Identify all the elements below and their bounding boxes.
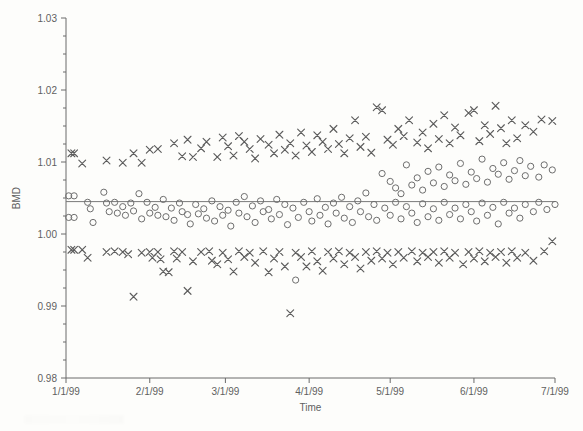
data-point-x xyxy=(246,249,253,256)
data-point-x xyxy=(287,310,294,317)
data-point-x xyxy=(203,138,210,145)
data-point-o xyxy=(295,214,301,220)
data-point-x xyxy=(184,287,191,294)
data-point-x xyxy=(260,248,267,255)
data-point-o xyxy=(468,209,474,215)
data-point-o xyxy=(495,221,501,227)
data-point-o xyxy=(398,191,404,197)
y-axis-title: BMD xyxy=(11,187,22,209)
data-point-o xyxy=(414,175,420,181)
data-point-o xyxy=(266,206,272,212)
data-point-x xyxy=(287,140,294,147)
data-point-o xyxy=(244,214,250,220)
data-point-x xyxy=(319,138,326,145)
data-point-x xyxy=(190,154,197,161)
data-point-x xyxy=(314,258,321,265)
data-point-o xyxy=(403,162,409,168)
data-point-x xyxy=(281,263,288,270)
data-point-o xyxy=(403,204,409,210)
data-point-x xyxy=(522,122,529,129)
data-point-o xyxy=(447,172,453,178)
data-point-x xyxy=(430,249,437,256)
data-point-x xyxy=(476,248,483,255)
data-point-o xyxy=(398,216,404,222)
data-point-o xyxy=(365,214,371,220)
data-point-x xyxy=(476,138,483,145)
data-point-x xyxy=(400,133,407,140)
data-point-x xyxy=(503,259,510,266)
data-point-o xyxy=(203,215,209,221)
data-point-x xyxy=(430,120,437,127)
data-point-x xyxy=(130,293,137,300)
data-point-x xyxy=(341,261,348,268)
data-point-o xyxy=(114,210,120,216)
data-point-o xyxy=(168,205,174,211)
data-point-o xyxy=(528,163,534,169)
data-point-x xyxy=(138,159,145,166)
data-point-o xyxy=(474,218,480,224)
data-point-o xyxy=(441,183,447,189)
data-point-x xyxy=(425,145,432,152)
data-point-x xyxy=(125,251,132,258)
data-point-x xyxy=(368,257,375,264)
data-point-o xyxy=(441,199,447,205)
data-point-x xyxy=(395,125,402,132)
data-point-x xyxy=(171,140,178,147)
data-point-o xyxy=(387,178,393,184)
data-point-o xyxy=(541,162,547,168)
data-point-x xyxy=(171,248,178,255)
data-point-o xyxy=(517,215,523,221)
data-point-o xyxy=(155,212,161,218)
data-point-o xyxy=(495,171,501,177)
data-point-x xyxy=(130,150,137,157)
data-point-x xyxy=(414,258,421,265)
data-point-x xyxy=(271,150,278,157)
data-point-o xyxy=(463,181,469,187)
x-tick-label: 1/1/99 xyxy=(52,386,80,397)
data-point-o xyxy=(211,218,217,224)
data-point-o xyxy=(252,219,258,225)
data-point-x xyxy=(179,153,186,160)
data-point-x xyxy=(241,138,248,145)
data-point-x xyxy=(549,118,556,125)
data-point-x xyxy=(419,249,426,256)
data-point-x xyxy=(373,248,380,255)
data-point-o xyxy=(511,205,517,211)
data-point-o xyxy=(101,189,107,195)
data-point-x xyxy=(368,149,375,156)
y-tick-label: 1.01 xyxy=(38,157,58,168)
data-point-x xyxy=(111,248,118,255)
data-point-x xyxy=(206,248,213,255)
data-point-x xyxy=(498,249,505,256)
data-point-o xyxy=(85,199,91,205)
data-point-x xyxy=(79,246,86,253)
data-point-x xyxy=(549,238,556,245)
data-point-x xyxy=(190,258,197,265)
data-point-x xyxy=(246,146,253,153)
data-point-o xyxy=(517,157,523,163)
x-tick-label: 2/1/99 xyxy=(136,386,164,397)
data-point-o xyxy=(333,210,339,216)
x-axis-title: Time xyxy=(300,402,322,413)
data-point-o xyxy=(393,185,399,191)
scan-artifact xyxy=(24,415,124,424)
data-point-x xyxy=(173,255,180,262)
data-point-o xyxy=(357,209,363,215)
data-point-x xyxy=(298,254,305,261)
data-point-x xyxy=(314,132,321,139)
data-point-o xyxy=(152,204,158,210)
data-point-x xyxy=(514,135,521,142)
data-point-x xyxy=(281,146,288,153)
data-point-x xyxy=(335,141,342,148)
data-point-o xyxy=(122,212,128,218)
data-point-o xyxy=(536,199,542,205)
plot-svg: 1.031.021.011.000.990.981/1/992/1/993/1/… xyxy=(0,0,583,431)
data-point-x xyxy=(465,249,472,256)
data-point-o xyxy=(452,178,458,184)
y-tick-label: 0.99 xyxy=(38,301,58,312)
data-point-x xyxy=(335,248,342,255)
data-point-x xyxy=(241,254,248,261)
data-point-o xyxy=(544,206,550,212)
data-point-o xyxy=(225,207,231,213)
data-point-x xyxy=(198,145,205,152)
